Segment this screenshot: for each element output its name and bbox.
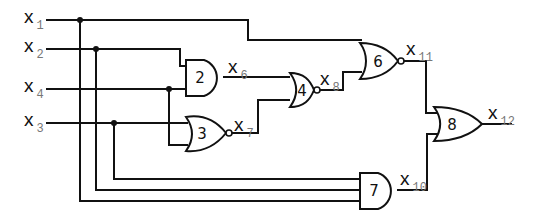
junction-dot [166, 86, 172, 92]
gate-number-7: 7 [369, 182, 379, 200]
gate-number-2: 2 [195, 69, 205, 87]
signal-label-x6: x6 [228, 56, 248, 78]
signal-label-x7: x7 [234, 114, 254, 136]
logic-circuit-diagram: x1 x2 x4 x3 x6 x7 x8 x10 x11 x12 2 3 4 6… [0, 0, 536, 218]
junction-dot [77, 17, 83, 23]
input-label-x3: x3 [24, 109, 44, 131]
gate-number-8: 8 [447, 116, 457, 134]
junction-dot [111, 120, 117, 126]
signal-label-x11: x11 [406, 38, 433, 60]
gate-number-6: 6 [373, 53, 383, 71]
signal-label-x10: x10 [400, 168, 427, 190]
gate-number-4: 4 [297, 82, 307, 100]
signal-label-x8: x8 [320, 68, 340, 90]
junction-dot [93, 46, 99, 52]
wire-x1 [46, 20, 362, 40]
gate-8-or [434, 107, 482, 141]
wire-x2 [46, 49, 186, 66]
input-label-x1: x1 [24, 6, 44, 28]
signal-label-x12: x12 [488, 102, 515, 124]
gate-6-inversion-bubble [398, 58, 404, 64]
input-label-x2: x2 [24, 35, 44, 57]
circuit-drawing [0, 0, 536, 218]
gate-number-3: 3 [197, 125, 207, 143]
wire-x1-branch [80, 20, 362, 201]
wire-x11 [403, 61, 440, 113]
input-label-x4: x4 [24, 75, 44, 97]
gate-3-inversion-bubble [226, 130, 232, 136]
